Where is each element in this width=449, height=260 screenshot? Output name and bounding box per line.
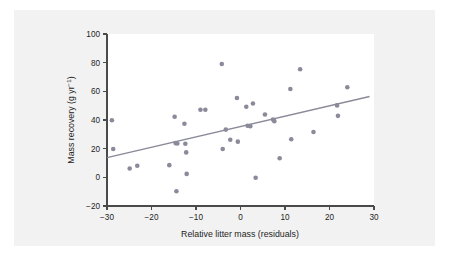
x-axis-tick-label: 30	[369, 213, 379, 222]
y-axis-tick-label: −20	[86, 202, 100, 211]
x-axis-tick-label: −20	[145, 213, 159, 222]
data-point	[184, 172, 189, 177]
data-point	[236, 139, 241, 144]
data-point	[228, 137, 233, 142]
data-point	[336, 114, 341, 119]
data-point	[172, 114, 177, 119]
x-axis-tick-label: −30	[100, 213, 114, 222]
y-axis-tick-label: 20	[91, 145, 101, 154]
data-point	[135, 163, 140, 168]
data-point	[263, 112, 268, 117]
plot-area-background	[107, 34, 374, 206]
data-point	[272, 119, 277, 124]
data-point	[167, 163, 172, 168]
y-axis-tick-label: 40	[91, 116, 101, 125]
data-point	[174, 189, 179, 194]
data-point	[311, 130, 316, 135]
x-axis-tick-label: −10	[189, 213, 203, 222]
data-point	[335, 103, 340, 108]
data-point	[182, 121, 187, 126]
y-axis-tick-label: 60	[91, 87, 101, 96]
data-point	[224, 127, 229, 132]
data-point	[175, 141, 180, 146]
data-point	[277, 156, 282, 161]
y-axis-tick-label: 0	[95, 173, 100, 182]
data-point	[288, 87, 293, 92]
data-point	[220, 147, 225, 152]
data-point	[289, 137, 294, 142]
x-axis-tick-label: 10	[280, 213, 290, 222]
data-point	[345, 85, 350, 90]
data-point	[244, 105, 249, 110]
data-point	[184, 150, 189, 155]
data-point	[183, 141, 188, 146]
x-axis-tick-label: 0	[238, 213, 243, 222]
data-point	[235, 96, 240, 101]
data-point	[253, 175, 258, 180]
data-point	[203, 107, 208, 112]
scatter-plot: −20020406080100 −30−20−100102030 Relativ…	[0, 0, 449, 260]
data-point	[127, 166, 132, 171]
data-point	[111, 147, 116, 152]
y-axis-tick-label: 100	[86, 30, 100, 39]
data-point	[198, 108, 203, 113]
y-axis-tick-label: 80	[91, 59, 101, 68]
x-axis-ticks: −30−20−100102030	[100, 206, 379, 222]
x-axis-tick-label: 20	[325, 213, 335, 222]
y-axis-ticks: −20020406080100	[86, 30, 107, 211]
figure-root: −20020406080100 −30−20−100102030 Relativ…	[0, 0, 449, 260]
data-point	[110, 118, 115, 123]
data-point	[220, 62, 225, 67]
data-point	[251, 101, 256, 106]
data-point	[248, 124, 253, 129]
data-point	[298, 67, 303, 72]
x-axis-title: Relative litter mass (residuals)	[181, 229, 299, 239]
y-axis-title: Mass recovery (g yr−1)	[65, 76, 76, 163]
